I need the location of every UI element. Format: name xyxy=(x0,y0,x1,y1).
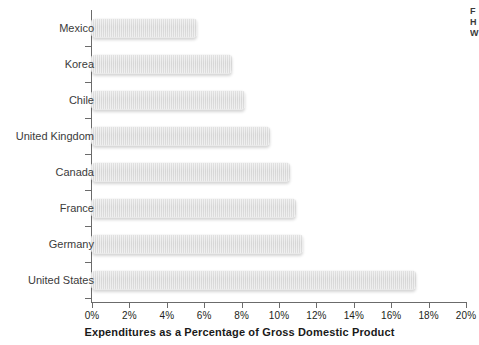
edge-caption-line-1: F xyxy=(470,6,479,17)
x-axis-tick-label: 0% xyxy=(85,310,100,321)
x-axis-tick-label: 6% xyxy=(197,310,212,321)
x-axis-tick-label: 16% xyxy=(381,310,401,321)
y-axis-tick xyxy=(85,190,92,191)
bar xyxy=(92,235,303,254)
edge-caption-line-2: H xyxy=(470,17,479,28)
x-axis-tick xyxy=(429,302,430,308)
bar xyxy=(92,91,245,110)
x-axis-tick xyxy=(279,302,280,308)
y-axis-tick xyxy=(85,226,92,227)
edge-caption-line-3: W xyxy=(470,28,479,39)
x-axis-tick-label: 2% xyxy=(122,310,137,321)
category-label: United Kingdom xyxy=(16,130,94,142)
x-axis-tick xyxy=(242,302,243,308)
plot-area: MexicoKoreaChileUnited KingdomCanadaFran… xyxy=(0,0,479,345)
x-axis-tick xyxy=(316,302,317,308)
x-axis-tick xyxy=(92,302,93,308)
y-axis-tick xyxy=(85,154,92,155)
bar xyxy=(92,199,296,218)
category-label: Mexico xyxy=(59,22,94,34)
clipped-edge-caption: F H W xyxy=(470,6,479,39)
x-axis-tick-label: 18% xyxy=(418,310,438,321)
x-axis-tick-label: 12% xyxy=(306,310,326,321)
x-axis-title: Expenditures as a Percentage of Gross Do… xyxy=(0,326,479,338)
x-axis-tick-label: 20% xyxy=(456,310,476,321)
x-axis-tick xyxy=(204,302,205,308)
bar xyxy=(92,19,197,38)
category-label: United States xyxy=(28,274,94,286)
x-axis-tick xyxy=(167,302,168,308)
x-axis-tick-label: 4% xyxy=(159,310,174,321)
y-axis-tick xyxy=(85,262,92,263)
category-label: Canada xyxy=(55,166,94,178)
y-axis-tick xyxy=(85,82,92,83)
x-axis-tick-label: 8% xyxy=(234,310,249,321)
y-axis-tick xyxy=(85,46,92,47)
y-axis-line xyxy=(91,10,92,302)
x-axis-tick xyxy=(354,302,355,308)
category-label: Korea xyxy=(65,58,94,70)
x-axis-tick-label: 10% xyxy=(269,310,289,321)
x-axis-tick xyxy=(466,302,467,308)
category-label: Chile xyxy=(69,94,94,106)
bar-chart: MexicoKoreaChileUnited KingdomCanadaFran… xyxy=(0,0,479,345)
y-axis-tick xyxy=(85,118,92,119)
bar xyxy=(92,271,416,290)
x-axis-tick xyxy=(129,302,130,308)
x-axis-tick-label: 14% xyxy=(344,310,364,321)
x-axis-tick xyxy=(391,302,392,308)
category-label: Germany xyxy=(49,238,94,250)
bar xyxy=(92,127,270,146)
y-axis-tick xyxy=(85,298,92,299)
bar xyxy=(92,163,290,182)
category-label: France xyxy=(60,202,94,214)
bar xyxy=(92,55,232,74)
